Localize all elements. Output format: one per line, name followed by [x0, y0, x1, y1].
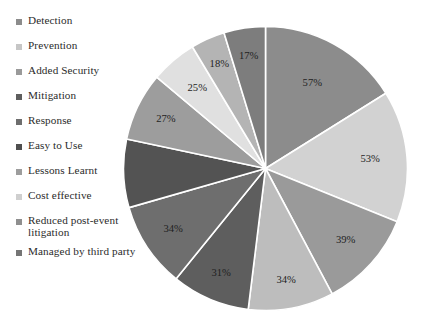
pie-slice-label: 39% — [336, 234, 356, 245]
pie-slice-label: 34% — [163, 223, 183, 234]
pie-slice-label: 57% — [303, 77, 323, 88]
legend-swatch-icon — [16, 19, 22, 25]
legend-item[interactable]: Detection — [16, 14, 156, 27]
legend-item-label: Cost effective — [28, 189, 92, 202]
legend-item-label: Lessons Learnt — [28, 164, 97, 177]
pie-chart-svg: 57%53%39%34%31%34%27%25%18%17% — [123, 26, 408, 311]
legend-swatch-icon — [16, 219, 22, 225]
legend-swatch-icon — [16, 44, 22, 50]
pie-slice-group — [123, 26, 407, 310]
pie-chart-figure: DetectionPreventionAdded SecurityMitigat… — [0, 0, 425, 332]
legend-swatch-icon — [16, 69, 22, 75]
legend-swatch-icon — [16, 169, 22, 175]
pie-slice-label: 53% — [360, 153, 380, 164]
legend-swatch-icon — [16, 194, 22, 200]
pie-slice-label: 31% — [211, 267, 231, 278]
legend-item-label: Response — [28, 114, 72, 127]
pie-chart: 57%53%39%34%31%34%27%25%18%17% — [123, 26, 408, 311]
legend-item-label: Easy to Use — [28, 139, 83, 152]
legend-item-label: Managed by third party — [28, 245, 136, 258]
legend-swatch-icon — [16, 250, 22, 256]
pie-slice-label: 25% — [188, 82, 208, 93]
legend-swatch-icon — [16, 119, 22, 125]
legend-swatch-icon — [16, 94, 22, 100]
pie-slice-label: 27% — [156, 113, 176, 124]
pie-slice-label: 34% — [276, 274, 296, 285]
pie-slice-label: 17% — [239, 50, 259, 61]
pie-slice-label: 18% — [210, 58, 230, 69]
legend-item-label: Mitigation — [28, 89, 76, 102]
legend-item-label: Detection — [28, 14, 72, 27]
legend-item-label: Added Security — [28, 64, 99, 77]
legend-item-label: Prevention — [28, 39, 77, 52]
legend-swatch-icon — [16, 144, 22, 150]
